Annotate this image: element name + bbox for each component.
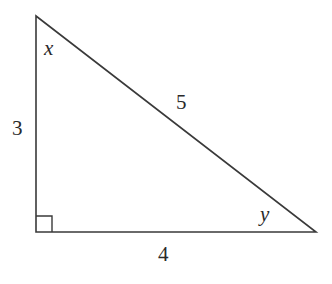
triangle-diagram: x 3 5 y 4 [0, 0, 332, 284]
angle-y-label: y [260, 204, 269, 225]
angle-x-label: x [44, 38, 53, 59]
side-horizontal-label: 4 [158, 244, 169, 265]
side-hypotenuse-label: 5 [176, 92, 187, 113]
right-angle-marker [36, 216, 52, 232]
triangle-outline [36, 16, 316, 232]
side-vertical-label: 3 [12, 118, 23, 139]
